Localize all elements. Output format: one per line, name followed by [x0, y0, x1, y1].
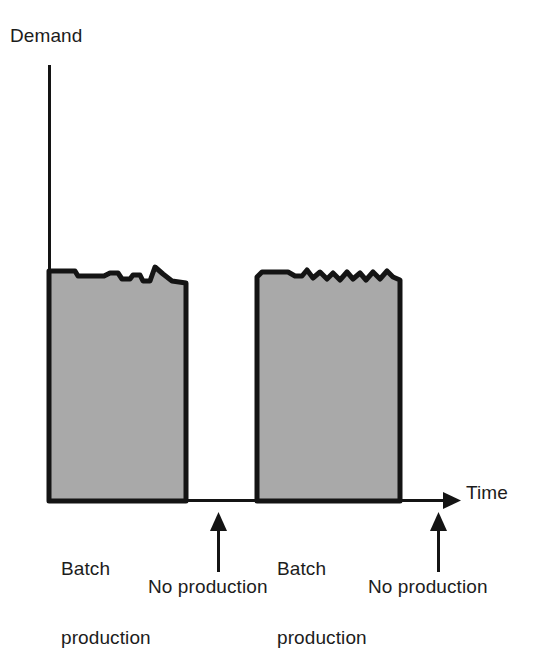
batch-production-area-2: [257, 270, 400, 501]
batch-production-label-1-line1: Batch: [61, 557, 151, 580]
no-production-arrow-2-icon: [430, 512, 447, 572]
no-production-arrow-1-icon: [210, 512, 227, 572]
x-axis-title: Time: [466, 481, 508, 504]
no-production-label-1: No production: [148, 575, 268, 598]
batch-production-label-1-line2: production: [61, 626, 151, 649]
x-axis-arrowhead-icon: [443, 492, 461, 509]
batch-production-label-2-line1: Batch: [277, 557, 367, 580]
batch-production-label-1: Batch production: [61, 511, 151, 652]
y-axis-title: Demand: [10, 24, 82, 47]
batch-production-label-2-line2: production: [277, 626, 367, 649]
batch-production-area-1: [49, 267, 186, 501]
no-production-label-2: No production: [368, 575, 488, 598]
batch-production-label-2: Batch production: [277, 511, 367, 652]
